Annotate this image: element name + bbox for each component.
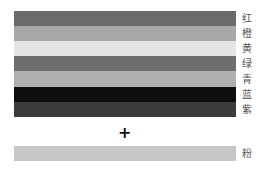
plus-icon: +	[118, 125, 131, 141]
label-purple: 紫	[242, 102, 252, 117]
label-blue: 蓝	[242, 87, 252, 102]
color-bar-blue	[14, 87, 236, 102]
label-cyan: 青	[242, 72, 252, 87]
label-yellow: 黄	[242, 41, 252, 56]
label-red: 红	[242, 11, 252, 26]
color-bar-cyan	[14, 71, 236, 87]
color-bar-pink	[14, 146, 236, 161]
color-bar-red	[14, 11, 236, 26]
label-pink: 粉	[242, 146, 252, 161]
label-green: 绿	[242, 56, 252, 71]
label-orange: 橙	[242, 26, 252, 41]
color-bar-green	[14, 56, 236, 71]
color-bar-orange	[14, 26, 236, 41]
color-bar-yellow	[14, 41, 236, 56]
color-bar-purple	[14, 102, 236, 117]
